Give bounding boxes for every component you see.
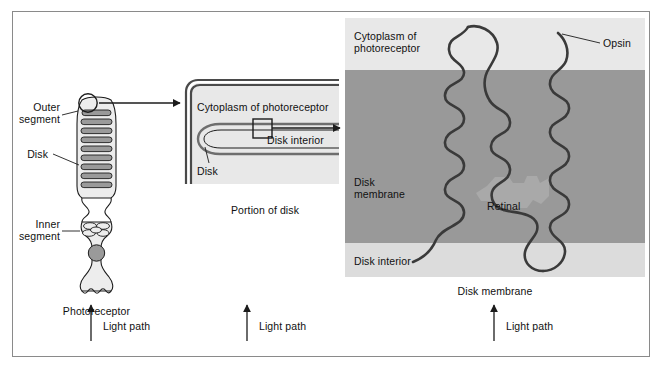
label-disk-interior-panel2: Disk interior: [267, 134, 324, 147]
figure-root: Outer segment Disk Inner segment Photore…: [0, 0, 659, 372]
nucleus: [88, 245, 104, 261]
leader-outer-segment: [62, 111, 78, 115]
label-opsin: Opsin: [603, 37, 631, 50]
label-disk-panel2: Disk: [197, 165, 218, 178]
disk-stack: [81, 110, 112, 188]
label-inner-segment-line1: Inner: [4, 218, 60, 231]
label-outer-segment-line2: segment: [4, 113, 60, 126]
label-disk-membrane-line2: membrane: [354, 188, 405, 201]
label-disk-membrane-line1: Disk: [354, 176, 375, 189]
label-outer-segment-line1: Outer: [4, 101, 60, 114]
label-cytoplasm-disk-panel: Cytoplasm of photoreceptor: [197, 101, 329, 114]
photoreceptor-cell-drawing: [77, 94, 116, 293]
leader-lines-panel1: [53, 111, 80, 231]
label-retinal: Retinal: [487, 200, 520, 213]
caption-portion-of-disk: Portion of disk: [190, 204, 340, 217]
caption-photoreceptor: Photoreceptor: [40, 305, 153, 318]
label-cytoplasm-line1: Cytoplasm of: [354, 30, 416, 43]
membrane-band: [345, 70, 645, 243]
light-path-label-2: Light path: [259, 320, 306, 333]
label-disk-cell: Disk: [4, 148, 48, 161]
leader-disk: [53, 154, 79, 165]
caption-disk-membrane: Disk membrane: [420, 285, 570, 298]
light-path-label-1: Light path: [103, 320, 150, 333]
light-path-label-3: Light path: [506, 320, 553, 333]
connecting-cilium: [82, 198, 112, 222]
label-cytoplasm-line2: photoreceptor: [354, 42, 420, 55]
label-inner-segment-line2: segment: [4, 230, 60, 243]
disk-membrane-drawing: [345, 18, 645, 277]
label-disk-interior-panel3: Disk interior: [354, 255, 411, 268]
